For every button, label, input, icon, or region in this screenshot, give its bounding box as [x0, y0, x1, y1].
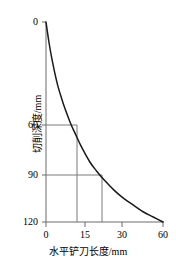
- x-tick-label-30: 30: [117, 230, 127, 240]
- chart-figure: 0 60 90 120 0 15 30 60 水平铲刀长度/mm 切削深度/mm: [0, 0, 176, 271]
- y-tick-label-120: 120: [14, 217, 38, 227]
- x-tick-label-0: 0: [44, 230, 49, 240]
- y-axis-title: 切削深度/mm: [32, 95, 43, 153]
- x-tick-label-15: 15: [80, 230, 90, 240]
- data-curve: [46, 22, 163, 222]
- y-tick-label-90: 90: [14, 170, 38, 180]
- x-axis-title: 水平铲刀长度/mm: [49, 246, 127, 257]
- x-tick-label-60: 60: [158, 230, 168, 240]
- y-tick-label-0: 0: [14, 17, 38, 27]
